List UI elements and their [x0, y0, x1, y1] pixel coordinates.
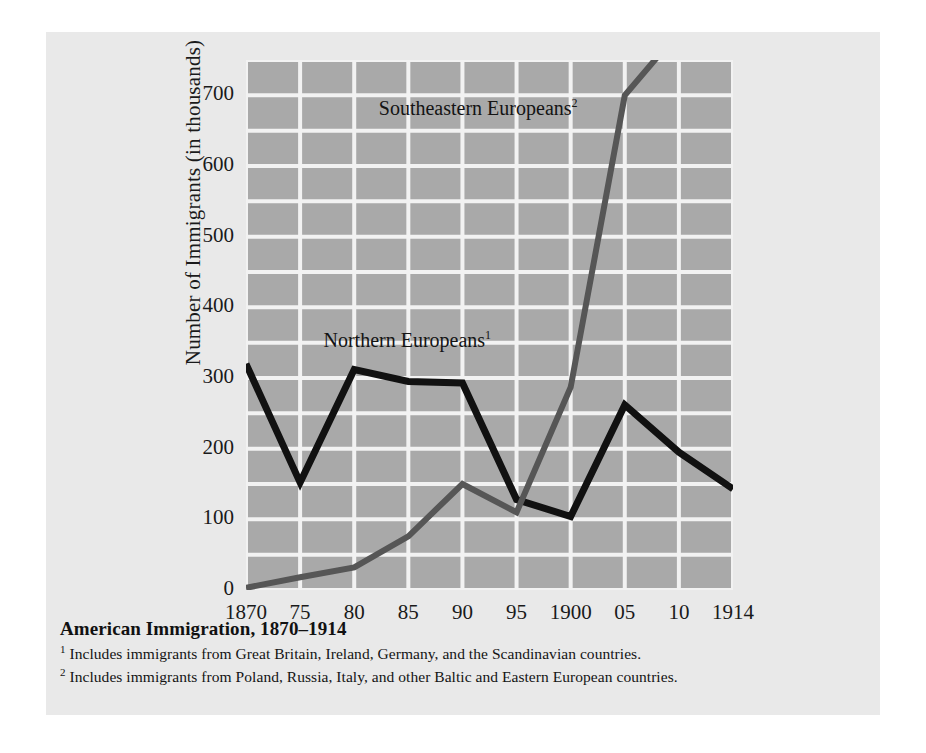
y-tick-200: 200 — [172, 435, 234, 460]
footnote-1-text: Includes immigrants from Great Britain, … — [70, 645, 642, 662]
series-lines — [246, 60, 733, 588]
y-tick-500: 500 — [172, 223, 234, 248]
plot-svg — [246, 60, 733, 590]
series-label-southeastern: Southeastern Europeans2 — [379, 96, 578, 120]
y-tick-600: 600 — [172, 152, 234, 177]
immigration-line-chart: Number of Immigrants (in thousands) 0100… — [46, 32, 880, 715]
gridlines — [246, 60, 733, 590]
footnote-1: 1 Includes immigrants from Great Britain… — [60, 643, 870, 663]
series-label-text: Northern Europeans — [323, 329, 485, 351]
footnote-2: 2 Includes immigrants from Poland, Russi… — [60, 666, 870, 686]
series-label-text: Southeastern Europeans — [379, 97, 572, 119]
series-label-marker: 2 — [572, 96, 578, 110]
y-tick-0: 0 — [172, 576, 234, 601]
series-label-northern: Northern Europeans1 — [323, 328, 491, 352]
footnote-2-text: Includes immigrants from Poland, Russia,… — [70, 668, 678, 685]
y-tick-700: 700 — [172, 81, 234, 106]
caption-block: American Immigration, 1870–1914 1 Includ… — [60, 618, 870, 686]
footnote-2-marker: 2 — [60, 666, 66, 678]
series-label-marker: 1 — [485, 328, 491, 342]
plot-area: Southeastern Europeans2 Northern Europea… — [246, 60, 733, 590]
caption-title: American Immigration, 1870–1914 — [60, 618, 870, 640]
y-tick-400: 400 — [172, 293, 234, 318]
footnote-1-marker: 1 — [60, 643, 66, 655]
y-tick-300: 300 — [172, 364, 234, 389]
y-tick-100: 100 — [172, 505, 234, 530]
figure-card: Number of Immigrants (in thousands) 0100… — [46, 32, 880, 715]
